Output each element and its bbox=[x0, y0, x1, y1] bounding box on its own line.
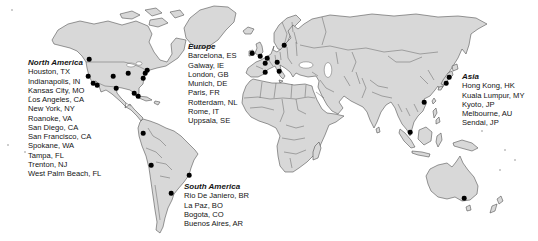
city-marker bbox=[111, 74, 116, 79]
city-marker bbox=[408, 130, 413, 135]
region-asia: Asia Hong Kong, HKKuala Lumpur, MYKyoto,… bbox=[462, 72, 524, 128]
city-list-north-america: Houston, TXIndianapolis, INKansas City, … bbox=[28, 67, 101, 178]
city-marker bbox=[250, 51, 255, 56]
city-marker bbox=[187, 173, 192, 178]
city-marker bbox=[143, 71, 148, 76]
city-marker bbox=[422, 100, 427, 105]
city-marker bbox=[149, 163, 154, 168]
city-list-item: Uppsala, SE bbox=[188, 116, 237, 125]
city-marker bbox=[447, 75, 452, 80]
city-list-item: Indianapolis, IN bbox=[28, 77, 101, 86]
city-marker bbox=[263, 61, 268, 66]
city-marker bbox=[114, 86, 119, 91]
city-list-item: West Palm Beach, FL bbox=[28, 169, 101, 178]
city-marker bbox=[141, 131, 146, 136]
region-north-america: North America Houston, TXIndianapolis, I… bbox=[28, 58, 101, 178]
world-cities-map: North America Houston, TXIndianapolis, I… bbox=[0, 0, 538, 241]
city-marker bbox=[141, 76, 146, 81]
city-list-item: La Paz, BO bbox=[184, 201, 249, 210]
city-list-item: Rio De Janiero, BR bbox=[184, 191, 249, 200]
region-header-europe: Europe bbox=[188, 42, 237, 51]
region-south-america: South America Rio De Janiero, BRLa Paz, … bbox=[184, 182, 249, 228]
city-list-item: Trenton, NJ bbox=[28, 160, 101, 169]
city-marker bbox=[263, 70, 268, 75]
city-list-item: Spokane, WA bbox=[28, 141, 101, 150]
city-list-europe: Barcelona, ESGalway, IELondon, GBMunich,… bbox=[188, 51, 237, 125]
region-header-north-america: North America bbox=[28, 58, 101, 67]
city-list-item: Kansas City, MO bbox=[28, 86, 101, 95]
city-list-item: Hong Kong, HK bbox=[462, 81, 524, 90]
city-list-item: Kuala Lumpur, MY bbox=[462, 91, 524, 100]
city-list-item: Sendai, JP bbox=[462, 118, 524, 127]
city-list-item: Galway, IE bbox=[188, 61, 237, 70]
city-list-item: San Francisco, CA bbox=[28, 132, 101, 141]
city-marker bbox=[258, 54, 263, 59]
region-header-asia: Asia bbox=[462, 72, 524, 81]
city-marker bbox=[136, 94, 141, 99]
city-marker bbox=[265, 56, 270, 61]
city-list-item: Buenos Aires, AR bbox=[184, 219, 249, 228]
city-list-item: San Diego, CA bbox=[28, 123, 101, 132]
region-header-south-america: South America bbox=[184, 182, 249, 191]
city-list-item: Paris, FR bbox=[188, 88, 237, 97]
city-marker bbox=[275, 60, 280, 65]
city-list-item: Bogota, CO bbox=[184, 210, 249, 219]
city-list-item: Barcelona, ES bbox=[188, 51, 237, 60]
city-list-item: Tampa, FL bbox=[28, 151, 101, 160]
city-marker bbox=[277, 69, 282, 74]
city-list-south-america: Rio De Janiero, BRLa Paz, BOBogota, COBu… bbox=[184, 191, 249, 228]
city-list-item: Roanoke, VA bbox=[28, 114, 101, 123]
city-list-asia: Hong Kong, HKKuala Lumpur, MYKyoto, JPMe… bbox=[462, 81, 524, 127]
city-list-item: Los Angeles, CA bbox=[28, 95, 101, 104]
city-marker bbox=[282, 43, 287, 48]
city-list-item: New York, NY bbox=[28, 104, 101, 113]
city-list-item: Rome, IT bbox=[188, 107, 237, 116]
city-marker bbox=[444, 81, 449, 86]
city-list-item: London, GB bbox=[188, 70, 237, 79]
city-marker bbox=[462, 196, 467, 201]
city-list-item: Houston, TX bbox=[28, 67, 101, 76]
city-list-item: Melbourne, AU bbox=[462, 109, 524, 118]
region-europe: Europe Barcelona, ESGalway, IELondon, GB… bbox=[188, 42, 237, 125]
city-list-item: Rotterdam, NL bbox=[188, 98, 237, 107]
city-marker bbox=[126, 71, 131, 76]
city-marker bbox=[169, 191, 174, 196]
city-list-item: Kyoto, JP bbox=[462, 100, 524, 109]
city-list-item: Munich, DE bbox=[188, 79, 237, 88]
